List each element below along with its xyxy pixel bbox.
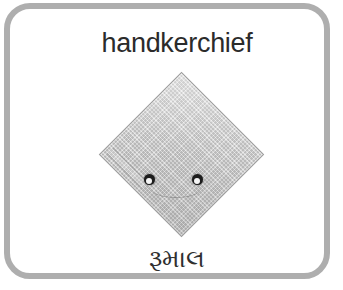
handkerchief-cloth-icon: [99, 71, 264, 236]
flashcard: handkerchief રૂમાલ: [0, 0, 343, 290]
card-frame: handkerchief રૂમાલ: [4, 3, 330, 279]
translation-label: રૂમાલ: [10, 243, 343, 273]
handkerchief-illustration: [98, 69, 265, 239]
cloth-shading: [100, 73, 263, 236]
cloth-dot-left-icon: [144, 174, 155, 185]
cloth-dot-right-icon: [192, 174, 203, 185]
page-title: handkerchief: [10, 27, 343, 59]
